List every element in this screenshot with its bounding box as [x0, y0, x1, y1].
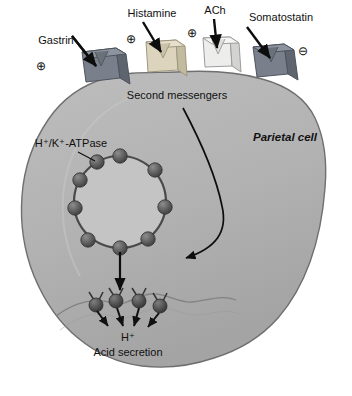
label-somatostatin: Somatostatin [249, 11, 313, 23]
label-histamine: Histamine [128, 7, 177, 19]
parietal-cell-body [22, 71, 326, 367]
receptor-histamine[interactable] [146, 40, 187, 76]
vesicle-pump-bead [73, 173, 87, 187]
label-parietal-cell: Parietal cell [253, 131, 318, 143]
label-hk-atpase: H⁺/K⁺-ATPase [35, 137, 107, 149]
receptor-ach[interactable] [203, 37, 241, 72]
vesicle-pump-bead [141, 232, 155, 246]
sign-ach: ⊕ [187, 26, 197, 40]
vesicle-pump-bead [81, 233, 95, 247]
receptor-gastrin[interactable] [82, 48, 130, 84]
vesicle-pump-bead [158, 200, 172, 214]
label-acid-secretion: Acid secretion [93, 346, 162, 358]
label-proton: H⁺ [121, 331, 135, 343]
cell-membrane-outline [22, 71, 326, 367]
receptor-somatostatin[interactable] [253, 44, 298, 80]
parietal-cell-diagram: Gastrin Histamine ACh Somatostatin ⊕ ⊕ ⊕… [0, 0, 352, 396]
vesicle-pump-bead [68, 201, 82, 215]
vesicle-pump-bead [148, 163, 162, 177]
label-gastrin: Gastrin [38, 34, 73, 46]
figure-canvas: Gastrin Histamine ACh Somatostatin ⊕ ⊕ ⊕… [0, 0, 352, 396]
label-second-messengers: Second messengers [127, 89, 228, 101]
vesicle-pump-bead [90, 155, 104, 169]
sign-somatostatin: ⊖ [298, 44, 308, 58]
label-ach: ACh [204, 4, 225, 16]
sign-gastrin: ⊕ [36, 59, 46, 73]
vesicle-pump-bead [113, 149, 127, 163]
sign-histamine: ⊕ [126, 32, 136, 46]
